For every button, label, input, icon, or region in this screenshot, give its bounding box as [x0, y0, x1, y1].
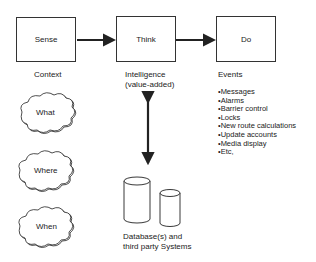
cloud-label-what: What — [36, 108, 55, 117]
cloud-label-where: Where — [34, 166, 58, 175]
cloud-label-when: When — [36, 222, 57, 231]
context-caption: Context — [34, 70, 62, 80]
sense-label: Sense — [35, 35, 58, 44]
events-list: •Messages •Alarms •Barrier control •Lock… — [218, 88, 296, 157]
value-added-caption: (value-added) — [125, 80, 174, 90]
database-caption-line2: third party Systems — [123, 242, 191, 252]
database-icon-small — [160, 190, 180, 227]
events-caption: Events — [218, 70, 242, 80]
do-box: Do — [216, 16, 276, 62]
database-icon-large — [124, 177, 150, 223]
think-box: Think — [116, 16, 176, 62]
think-label: Think — [136, 35, 156, 44]
do-label: Do — [241, 35, 251, 44]
intelligence-caption: Intelligence — [125, 70, 165, 80]
database-caption-line1: Database(s) and — [123, 232, 182, 242]
event-item: •Etc, — [218, 148, 296, 157]
sense-box: Sense — [16, 17, 76, 62]
